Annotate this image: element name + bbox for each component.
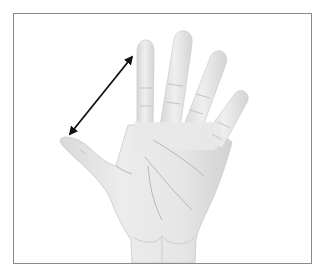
- hand-illustration: [0, 0, 326, 275]
- index-finger: [137, 40, 154, 128]
- span-measurement-arrow: [70, 57, 132, 134]
- middle-finger: [160, 31, 192, 128]
